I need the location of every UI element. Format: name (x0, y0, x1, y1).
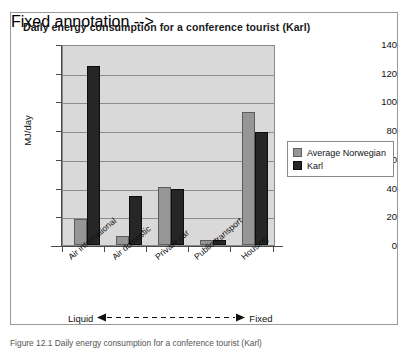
x-tick (146, 246, 147, 252)
legend-swatch-icon (293, 161, 302, 170)
y-axis-title: MJ/day (22, 101, 33, 161)
x-tick (188, 246, 189, 252)
bar-average-norwegian-housing (242, 112, 255, 246)
x-tick (230, 246, 231, 252)
chart-legend: Average Norwegian Karl (287, 141, 394, 177)
figure-container: Daily energy consumption for a conferenc… (0, 0, 411, 348)
y-tick-label: 20 (353, 211, 397, 222)
figure-caption: Figure 12.1 Daily energy consumption for… (10, 338, 401, 348)
legend-label: Karl (307, 161, 323, 171)
legend-item-average-norwegian: Average Norwegian (293, 146, 386, 159)
y-tick-label: 80 (353, 125, 397, 136)
bar-karl-housing (255, 132, 268, 245)
plot-area (62, 45, 275, 246)
legend-item-karl: Karl (293, 159, 386, 172)
liquid-fixed-annotation: Liquid Fixed (68, 309, 273, 327)
y-tick-label: 0 (353, 240, 397, 251)
annotation-left-label: Liquid (68, 313, 93, 324)
x-tick (273, 246, 274, 252)
x-tick (62, 246, 63, 252)
y-tick-label: 140 (353, 39, 397, 50)
legend-swatch-icon (293, 148, 302, 157)
x-tick (104, 246, 105, 252)
annotation-right-label: Fixed (249, 313, 272, 324)
y-tick-label: 100 (353, 96, 397, 107)
legend-label: Average Norwegian (307, 148, 386, 158)
bar-karl-air-international (87, 66, 100, 246)
bar-average-norwegian-private-car (158, 187, 171, 245)
chart-frame: Daily energy consumption for a conferenc… (10, 12, 398, 325)
chart-title: Daily energy consumption for a conferenc… (23, 21, 310, 33)
double-arrow-icon (97, 309, 245, 327)
y-tick-label: 40 (353, 183, 397, 194)
y-tick-label: 120 (353, 68, 397, 79)
